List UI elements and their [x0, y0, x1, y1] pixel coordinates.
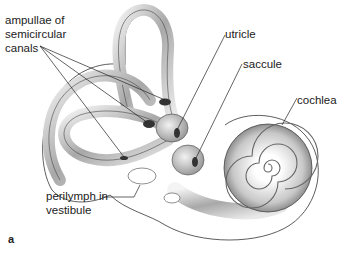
cochlea-shape	[224, 123, 318, 212]
label-perilymph-line2: vestibule	[46, 203, 108, 217]
perilymph-oval	[128, 168, 156, 184]
label-saccule: saccule	[243, 57, 282, 71]
label-perilymph-line1: perilymph in	[46, 189, 108, 203]
panel-label: a	[8, 233, 14, 245]
label-ampullae-line3: canals	[5, 41, 66, 55]
saccule-shape	[172, 145, 204, 175]
perilymph-oval-2	[164, 193, 180, 203]
lateral-semicircular-canal	[64, 111, 170, 160]
label-utricle: utricle	[225, 27, 256, 41]
label-ampullae-line2: semicircular	[5, 27, 66, 41]
label-ampullae: ampullae of semicircular canals	[5, 13, 66, 55]
label-ampullae-line1: ampullae of	[5, 13, 66, 27]
label-perilymph: perilymph in vestibule	[46, 189, 108, 217]
label-cochlea: cochlea	[297, 93, 337, 107]
inner-ear-diagram: ampullae of semicircular canals utricle …	[0, 0, 340, 254]
